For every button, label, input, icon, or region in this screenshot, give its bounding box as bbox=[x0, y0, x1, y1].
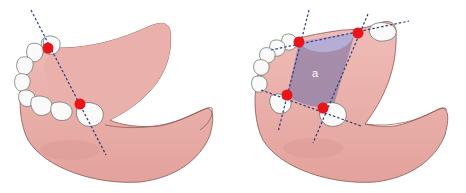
mandible-illustration-left bbox=[0, 0, 233, 193]
abutment-marker-3 bbox=[282, 90, 293, 101]
mandible-illustration-right: a bbox=[233, 0, 466, 193]
panel-left-mandible bbox=[0, 0, 233, 193]
abutment-marker-2 bbox=[75, 99, 86, 110]
panel-right-mandible: a bbox=[233, 0, 466, 193]
abutment-marker-1 bbox=[43, 43, 54, 54]
dental-figure: a bbox=[0, 0, 466, 193]
abutment-marker-1 bbox=[294, 37, 305, 48]
gum-shadow bbox=[283, 138, 343, 158]
region-label-a: a bbox=[312, 67, 319, 79]
gum-shadow bbox=[40, 140, 100, 160]
abutment-marker-4 bbox=[318, 103, 329, 114]
abutment-marker-2 bbox=[353, 28, 364, 39]
